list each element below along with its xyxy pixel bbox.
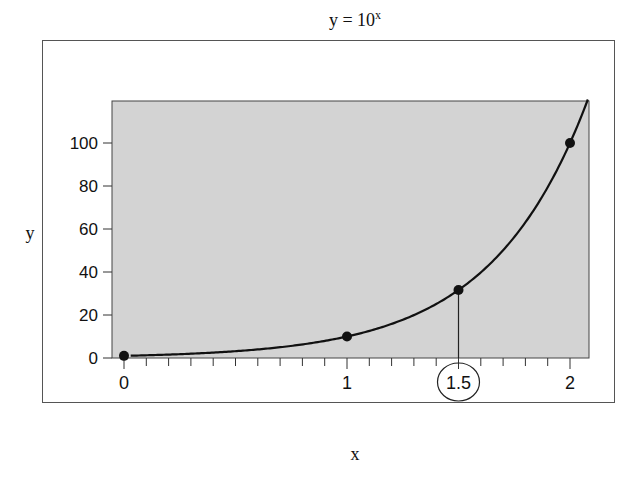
chart-title: y = 10x <box>329 8 381 30</box>
y-tick-label: 20 <box>79 306 98 325</box>
plot-area <box>112 101 589 358</box>
y-tick-label: 80 <box>79 177 98 196</box>
data-point <box>565 138 575 148</box>
chart: y = 10x 020406080100 011.52 y x <box>0 0 642 485</box>
data-point <box>119 351 129 361</box>
data-point <box>454 285 464 295</box>
y-axis-label: y <box>26 223 35 243</box>
chart-title-exponent: x <box>375 8 381 22</box>
y-tick-label: 0 <box>89 349 98 368</box>
data-point <box>342 332 352 342</box>
x-tick-label: 1 <box>342 373 352 393</box>
x-tick-label: 1.5 <box>446 373 471 393</box>
y-tick-label: 40 <box>79 263 98 282</box>
x-tick-label: 0 <box>119 373 129 393</box>
y-tick-label: 100 <box>70 134 98 153</box>
x-axis-label: x <box>351 444 360 464</box>
chart-title-base: y = 10 <box>329 10 375 30</box>
x-tick-label: 2 <box>565 373 575 393</box>
y-tick-label: 60 <box>79 220 98 239</box>
